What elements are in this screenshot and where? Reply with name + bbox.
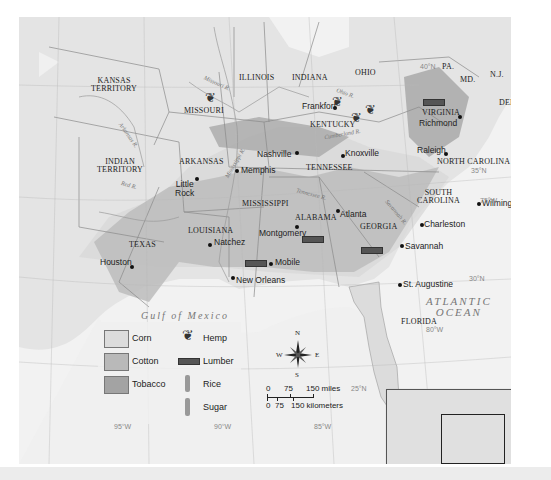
hemp-icon: ❦ bbox=[205, 91, 216, 104]
state-label-alabama: ALABAMA bbox=[295, 214, 337, 222]
city-dot bbox=[400, 244, 404, 248]
lumber-icon bbox=[302, 236, 324, 243]
lumber-icon bbox=[361, 247, 383, 254]
state-label-md: MD. bbox=[460, 76, 476, 84]
city-dot bbox=[295, 151, 299, 155]
state-label-kentucky: KENTUCKY bbox=[310, 121, 356, 129]
city-nashville: Nashville bbox=[257, 150, 292, 159]
scale-km-0: 0 bbox=[266, 402, 270, 410]
state-label-line: TERRITORY bbox=[91, 85, 137, 93]
state-label-virginia: VIRGINIA bbox=[422, 109, 460, 117]
scale-miles-75: 75 bbox=[284, 385, 293, 393]
legend-label-tobacco: Tobacco bbox=[132, 379, 166, 389]
legend-label-cotton: Cotton bbox=[132, 356, 159, 366]
state-label-louisiana: LOUISIANA bbox=[188, 227, 233, 235]
coord-35n: 35°N bbox=[471, 167, 487, 174]
coord-80w: 80°W bbox=[426, 326, 443, 333]
water-label-atlantic: ATLANTIC OCEAN bbox=[426, 296, 492, 318]
city-st-augustine: St. Augustine bbox=[403, 280, 453, 289]
city-charleston: Charleston bbox=[424, 220, 465, 229]
scale-tick bbox=[313, 394, 314, 398]
state-label-line: CAROLINA bbox=[417, 197, 460, 205]
city-dot bbox=[235, 169, 239, 173]
inset-map-usa bbox=[386, 389, 511, 464]
city-dot bbox=[269, 262, 273, 266]
city-memphis: Memphis bbox=[241, 166, 275, 175]
city-savannah: Savannah bbox=[405, 242, 443, 251]
map-legend: Corn Cotton Tobacco ❦ Hemp Lumber Rice S… bbox=[98, 322, 241, 424]
rice-icon bbox=[185, 375, 190, 392]
compass-star-icon bbox=[276, 332, 320, 376]
city-little-rock: Little Rock bbox=[175, 180, 194, 197]
lumber-icon bbox=[178, 358, 200, 365]
scale-km-150: 150 kilometers bbox=[291, 402, 343, 410]
city-dot bbox=[231, 276, 235, 280]
hemp-icon: ❦ bbox=[365, 103, 376, 116]
scale-tick bbox=[267, 394, 268, 401]
state-label-georgia: GEORGIA bbox=[360, 223, 397, 231]
city-raleigh: Raleigh bbox=[417, 146, 446, 155]
lumber-icon bbox=[423, 99, 445, 106]
state-label-arkansas: ARKANSAS bbox=[179, 158, 224, 166]
legend-swatch-cotton bbox=[104, 353, 129, 371]
state-label-ohio: OHIO bbox=[355, 69, 376, 77]
state-label-pa: PA. bbox=[442, 63, 454, 71]
coord-90w: 90°W bbox=[214, 423, 231, 430]
legend-swatch-corn bbox=[104, 330, 129, 348]
city-dot bbox=[458, 115, 462, 119]
state-label-mississippi: MISSISSIPPI bbox=[242, 200, 289, 208]
state-label-texas: TEXAS bbox=[129, 241, 156, 249]
state-label-tennessee: TENNESSEE bbox=[306, 164, 353, 172]
state-label-florida: FLORIDA bbox=[401, 318, 437, 326]
scale-bar: 0 75 150 miles 0 75 150 kilometers bbox=[262, 385, 382, 415]
bottom-bar bbox=[0, 467, 551, 480]
sugar-icon bbox=[185, 398, 190, 416]
coord-95w: 95°W bbox=[114, 423, 131, 430]
state-label-del: DEL. bbox=[499, 99, 511, 107]
city-richmond: Richmond bbox=[419, 119, 457, 128]
city-dot bbox=[208, 243, 212, 247]
coord-75w: 75°W bbox=[480, 197, 497, 204]
city-dot bbox=[398, 283, 402, 287]
hemp-icon: ❦ bbox=[332, 95, 343, 108]
hemp-icon: ❦ bbox=[182, 328, 194, 342]
compass-rose: N S W E bbox=[276, 332, 320, 376]
water-label-line: OCEAN bbox=[426, 307, 492, 318]
city-houston: Houston bbox=[100, 258, 132, 267]
state-label-indiana: INDIANA bbox=[292, 74, 328, 82]
state-label-north-carolina: NORTH CAROLINA bbox=[437, 158, 510, 166]
state-label-indian-territory: INDIAN TERRITORY bbox=[97, 158, 143, 174]
hemp-icon: ❦ bbox=[351, 111, 362, 124]
state-label-kansas: KANSAS TERRITORY bbox=[91, 77, 137, 93]
coord-40n: 40°N bbox=[420, 63, 436, 70]
state-label-nj: N.J. bbox=[490, 71, 504, 79]
legend-label-sugar: Sugar bbox=[203, 402, 227, 412]
legend-label-corn: Corn bbox=[132, 333, 152, 343]
state-label-south-carolina: SOUTH CAROLINA bbox=[417, 189, 460, 205]
city-atlanta: Atlanta bbox=[340, 210, 366, 219]
scale-miles-0: 0 bbox=[266, 385, 270, 393]
scale-tick bbox=[290, 394, 291, 398]
scale-miles-150: 150 miles bbox=[306, 385, 340, 393]
legend-label-hemp: Hemp bbox=[203, 333, 227, 343]
city-montgomery: Montgomery bbox=[259, 229, 306, 238]
city-frankfort: Frankfort bbox=[302, 102, 336, 111]
legend-label-rice: Rice bbox=[203, 379, 221, 389]
city-knoxville: Knoxville bbox=[345, 149, 379, 158]
city-label-line: Rock bbox=[175, 189, 194, 198]
coord-85w: 85°W bbox=[314, 423, 331, 430]
lumber-icon bbox=[245, 260, 267, 267]
city-dot bbox=[195, 177, 199, 181]
scale-km-75: 75 bbox=[275, 402, 284, 410]
city-mobile: Mobile bbox=[275, 258, 300, 267]
city-new-orleans: New Orleans bbox=[236, 276, 285, 285]
city-natchez: Natchez bbox=[214, 238, 245, 247]
inset-map-highlight-box bbox=[441, 414, 505, 464]
state-label-line: TERRITORY bbox=[97, 166, 143, 174]
legend-label-lumber: Lumber bbox=[203, 356, 234, 366]
coord-30n: 30°N bbox=[469, 275, 485, 282]
state-label-missouri: MISSOURI bbox=[184, 107, 224, 115]
state-label-illinois: ILLINOIS bbox=[239, 74, 274, 82]
legend-swatch-tobacco bbox=[104, 376, 129, 394]
water-label-gulf: Gulf of Mexico bbox=[141, 311, 229, 321]
